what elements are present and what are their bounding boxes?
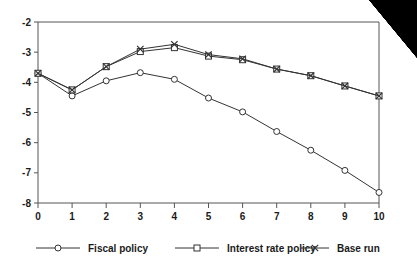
- circle-marker-icon: [274, 129, 280, 135]
- y-tick-label: -2: [22, 17, 31, 28]
- y-tick-label: -6: [22, 137, 31, 148]
- chart-background: [0, 0, 417, 269]
- x-tick-label: 7: [274, 211, 280, 222]
- circle-marker-icon: [342, 167, 348, 173]
- chart-figure: -2-3-4-5-6-7-8 012345678910 Fiscal polic…: [0, 0, 417, 269]
- circle-marker-icon: [308, 147, 314, 153]
- y-tick-label: -8: [22, 198, 31, 209]
- x-tick-label: 9: [342, 211, 348, 222]
- x-tick-label: 8: [308, 211, 314, 222]
- y-tick-label: -3: [22, 47, 31, 58]
- legend-item-label: Base run: [337, 243, 380, 254]
- circle-marker-icon: [171, 76, 177, 82]
- circle-marker-icon: [103, 78, 109, 84]
- square-marker-icon: [171, 45, 177, 51]
- x-tick-label: 6: [240, 211, 246, 222]
- line-chart: -2-3-4-5-6-7-8 012345678910 Fiscal polic…: [0, 0, 417, 269]
- x-tick-label: 4: [172, 211, 178, 222]
- legend-item-label: Fiscal policy: [88, 243, 148, 254]
- circle-marker-icon: [55, 245, 61, 251]
- x-tick-label: 2: [103, 211, 109, 222]
- circle-marker-icon: [376, 189, 382, 195]
- circle-marker-icon: [206, 95, 212, 101]
- circle-marker-icon: [69, 93, 75, 99]
- x-tick-label: 3: [138, 211, 144, 222]
- y-tick-label: -7: [22, 167, 31, 178]
- circle-marker-icon: [137, 70, 143, 76]
- y-tick-label: -4: [22, 77, 31, 88]
- x-tick-label: 5: [206, 211, 212, 222]
- square-marker-icon: [194, 245, 200, 251]
- x-tick-label: 10: [373, 211, 385, 222]
- circle-marker-icon: [240, 109, 246, 115]
- y-tick-label: -5: [22, 107, 31, 118]
- x-tick-label: 1: [69, 211, 75, 222]
- x-tick-label: 0: [35, 211, 41, 222]
